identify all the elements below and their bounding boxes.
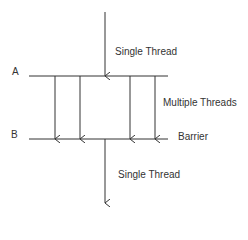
bottom-thread-label: Single Thread	[118, 170, 180, 180]
top-thread-label: Single Thread	[115, 47, 177, 57]
point-a-label: A	[12, 67, 19, 77]
barrier-label: Barrier	[178, 132, 208, 142]
multiple-threads-label: Multiple Threads	[163, 98, 237, 108]
point-b-label: B	[11, 130, 18, 140]
